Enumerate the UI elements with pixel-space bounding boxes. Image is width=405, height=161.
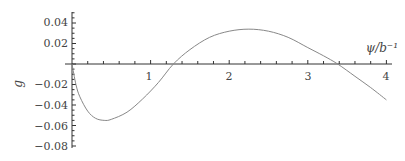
y-tick-0.04: 0.04 [44, 16, 69, 29]
y-tick-0.02: 0.02 [44, 37, 69, 50]
line-chart: 1 2 3 4 0.04 0.02 −0.02 −0.04 −0.06 −0.0… [0, 0, 405, 161]
x-tick-3: 3 [305, 70, 312, 83]
x-axis-title: ψ/b⁻¹ [366, 41, 398, 55]
y-axis-title: g [11, 80, 25, 88]
x-tick-4: 4 [383, 70, 390, 83]
y-tick-neg-0.02: −0.02 [34, 78, 68, 91]
y-tick-neg-0.06: −0.06 [34, 120, 68, 133]
x-tick-1: 1 [146, 70, 153, 83]
x-axis [65, 60, 392, 64]
y-tick-neg-0.04: −0.04 [34, 99, 68, 112]
x-tick-2: 2 [226, 70, 233, 83]
y-tick-neg-0.08: −0.08 [34, 140, 68, 153]
